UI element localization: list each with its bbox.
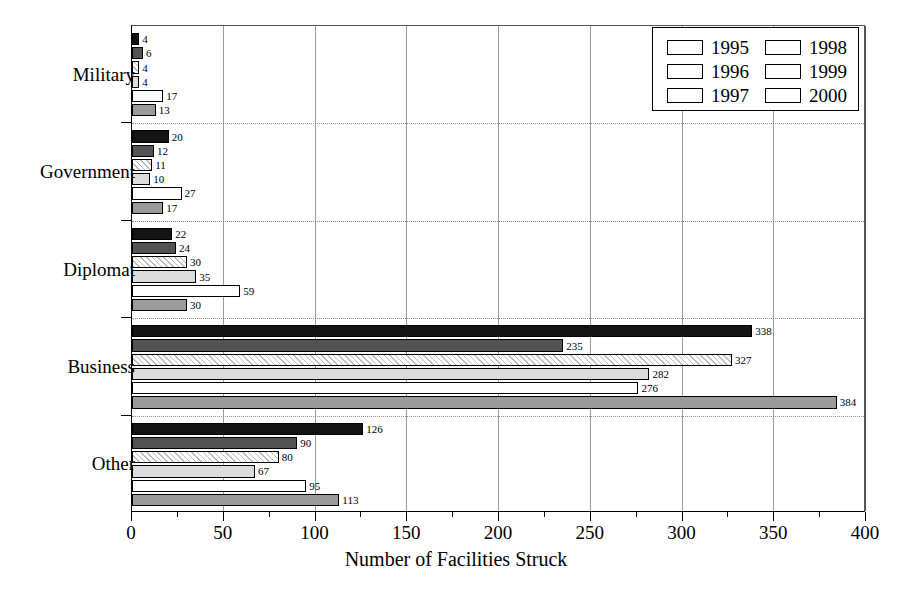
legend-item-1999[interactable]: 1999 bbox=[765, 59, 847, 83]
category-label-diplomat: Diplomat bbox=[63, 259, 135, 278]
x-tick-major bbox=[315, 512, 316, 521]
legend-column-right: 199819992000 bbox=[765, 35, 847, 107]
bar-diplomat-1998[interactable] bbox=[132, 270, 196, 282]
x-tick-minor bbox=[727, 512, 728, 517]
x-tick-label: 250 bbox=[576, 523, 605, 542]
bar-diplomat-2000[interactable] bbox=[132, 299, 187, 311]
bar-value-label: 4 bbox=[139, 34, 148, 45]
bar-value-label: 282 bbox=[649, 368, 669, 379]
bar-group: 338235327282276384 bbox=[132, 324, 864, 409]
bar-value-label: 384 bbox=[837, 397, 857, 408]
bar-value-label: 17 bbox=[163, 202, 177, 213]
legend-item-1998[interactable]: 1998 bbox=[765, 35, 847, 59]
legend-item-1996[interactable]: 1996 bbox=[667, 59, 749, 83]
bar-row: 67 bbox=[132, 464, 864, 478]
bar-row: 11 bbox=[132, 158, 864, 172]
bar-diplomat-1995[interactable] bbox=[132, 228, 172, 240]
bar-other-1995[interactable] bbox=[132, 423, 363, 435]
legend-item-1995[interactable]: 1995 bbox=[667, 35, 749, 59]
x-tick-minor bbox=[452, 512, 453, 517]
bar-row: 338 bbox=[132, 324, 864, 338]
x-tick-minor bbox=[636, 512, 637, 517]
category-label-government: Government bbox=[40, 162, 135, 181]
bar-diplomat-1999[interactable] bbox=[132, 285, 240, 297]
x-tick-label: 50 bbox=[213, 523, 232, 542]
x-tick-major bbox=[682, 512, 683, 521]
bar-value-label: 126 bbox=[363, 423, 383, 434]
legend-label: 2000 bbox=[809, 86, 847, 105]
bar-value-label: 59 bbox=[240, 285, 254, 296]
bar-other-1998[interactable] bbox=[132, 465, 255, 477]
bar-value-label: 327 bbox=[732, 354, 752, 365]
bar-value-label: 90 bbox=[297, 437, 311, 448]
bar-value-label: 95 bbox=[306, 480, 320, 491]
bar-government-1997[interactable] bbox=[132, 159, 152, 171]
bar-business-1999[interactable] bbox=[132, 382, 638, 394]
x-tick-minor bbox=[360, 512, 361, 517]
bar-diplomat-1996[interactable] bbox=[132, 242, 176, 254]
bar-military-1996[interactable] bbox=[132, 47, 143, 59]
bar-value-label: 13 bbox=[156, 105, 170, 116]
bar-government-1996[interactable] bbox=[132, 145, 154, 157]
x-tick-label: 0 bbox=[126, 523, 136, 542]
legend-swatch-icon bbox=[765, 88, 801, 103]
legend: 199519961997 199819992000 bbox=[652, 27, 859, 111]
legend-item-1997[interactable]: 1997 bbox=[667, 83, 749, 107]
x-tick-major bbox=[498, 512, 499, 521]
bar-value-label: 276 bbox=[638, 383, 658, 394]
bar-group: 201211102717 bbox=[132, 129, 864, 214]
bar-row: 27 bbox=[132, 186, 864, 200]
legend-label: 1998 bbox=[809, 38, 847, 57]
bar-group: 12690806795113 bbox=[132, 422, 864, 507]
bar-row: 90 bbox=[132, 436, 864, 450]
legend-item-2000[interactable]: 2000 bbox=[765, 83, 847, 107]
bar-business-1998[interactable] bbox=[132, 368, 649, 380]
bar-business-1995[interactable] bbox=[132, 325, 752, 337]
x-tick-major bbox=[590, 512, 591, 521]
gridline-vertical bbox=[865, 26, 866, 511]
bar-row: 10 bbox=[132, 172, 864, 186]
bar-row: 276 bbox=[132, 381, 864, 395]
bar-row: 30 bbox=[132, 255, 864, 269]
x-tick-label: 200 bbox=[484, 523, 513, 542]
legend-label: 1995 bbox=[711, 38, 749, 57]
bar-military-1995[interactable] bbox=[132, 33, 139, 45]
bar-value-label: 11 bbox=[152, 159, 166, 170]
bar-row: 12 bbox=[132, 144, 864, 158]
bar-value-label: 338 bbox=[752, 326, 772, 337]
bar-row: 59 bbox=[132, 284, 864, 298]
bar-value-label: 30 bbox=[187, 257, 201, 268]
x-tick-major bbox=[223, 512, 224, 521]
bar-value-label: 17 bbox=[163, 91, 177, 102]
bar-government-1999[interactable] bbox=[132, 187, 182, 199]
bar-government-2000[interactable] bbox=[132, 202, 163, 214]
bar-military-2000[interactable] bbox=[132, 104, 156, 116]
bar-value-label: 20 bbox=[169, 131, 183, 142]
bar-row: 22 bbox=[132, 227, 864, 241]
bar-government-1995[interactable] bbox=[132, 130, 169, 142]
bar-military-1999[interactable] bbox=[132, 90, 163, 102]
legend-label: 1996 bbox=[711, 62, 749, 81]
bar-value-label: 80 bbox=[279, 452, 293, 463]
bar-other-1996[interactable] bbox=[132, 437, 297, 449]
bar-other-1997[interactable] bbox=[132, 451, 279, 463]
x-tick-major bbox=[865, 512, 866, 521]
x-tick-label: 150 bbox=[392, 523, 421, 542]
category-tick bbox=[121, 220, 131, 221]
bar-value-label: 67 bbox=[255, 466, 269, 477]
bar-business-2000[interactable] bbox=[132, 396, 837, 408]
bar-group: 222430355930 bbox=[132, 227, 864, 312]
bar-diplomat-1997[interactable] bbox=[132, 256, 187, 268]
bar-business-1997[interactable] bbox=[132, 354, 732, 366]
legend-swatch-icon bbox=[765, 64, 801, 79]
bar-other-2000[interactable] bbox=[132, 494, 339, 506]
bar-value-label: 27 bbox=[182, 188, 196, 199]
bar-business-1996[interactable] bbox=[132, 339, 563, 351]
legend-label: 1999 bbox=[809, 62, 847, 81]
category-label-military: Military bbox=[73, 64, 135, 83]
bar-value-label: 4 bbox=[139, 76, 148, 87]
bar-value-label: 235 bbox=[563, 340, 583, 351]
bar-value-label: 4 bbox=[139, 62, 148, 73]
bar-row: 126 bbox=[132, 422, 864, 436]
bar-other-1999[interactable] bbox=[132, 480, 306, 492]
